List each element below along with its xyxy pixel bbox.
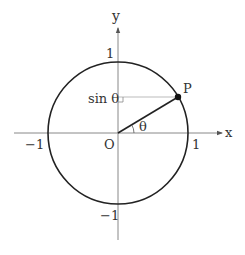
unit-circle-diagram: y x O P θ sin θ 1 −1 −1 1 — [0, 0, 245, 255]
radius-op — [118, 97, 178, 133]
y-tick-label-1: 1 — [106, 46, 114, 61]
angle-label: θ — [139, 119, 147, 134]
point-p-label: P — [183, 81, 192, 96]
x-axis-label: x — [225, 125, 233, 140]
y-tick-label-neg1: −1 — [100, 208, 119, 223]
origin-label: O — [104, 137, 115, 152]
sin-theta-label: sin θ — [88, 91, 119, 106]
x-tick-label-neg1: −1 — [25, 137, 44, 152]
angle-arc — [132, 125, 134, 133]
y-axis-label: y — [111, 8, 120, 24]
x-tick-label-1: 1 — [192, 137, 200, 152]
point-p — [175, 94, 181, 100]
